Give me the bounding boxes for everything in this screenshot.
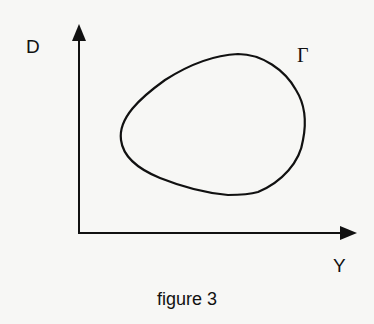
vertical-axis-arrow-icon [72,24,86,41]
closed-curve-gamma [121,54,305,195]
diagram-svg [0,0,374,324]
horizontal-axis-label: Y [333,255,346,277]
vertical-axis-label: D [26,36,40,58]
figure-canvas: D Γ Y figure 3 [0,0,374,324]
horizontal-axis-arrow-icon [340,226,357,240]
figure-caption: figure 3 [0,289,374,310]
curve-label: Γ [297,44,309,67]
